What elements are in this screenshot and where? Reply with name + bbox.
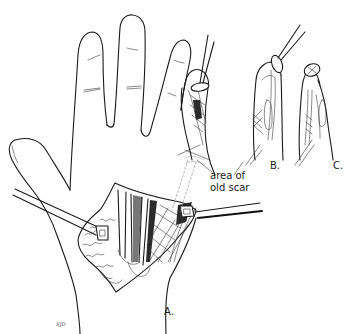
artist-signature: SJD [56, 321, 65, 327]
scar-annotation-line2: old scar [210, 182, 249, 194]
panel-label-b: B. [270, 160, 280, 171]
scar-annotation-line1: area of [210, 170, 249, 182]
finger-panel-c [295, 62, 333, 166]
retractor-right [180, 203, 262, 218]
palmar-incision [78, 183, 196, 292]
surgical-hand-illustration [0, 0, 351, 334]
panel-label-a: A. [164, 306, 174, 317]
scar-annotation: area of old scar [210, 170, 249, 194]
panel-label-c: C. [333, 160, 343, 171]
hand-outline [9, 15, 196, 334]
finger-panel-b [246, 25, 305, 165]
